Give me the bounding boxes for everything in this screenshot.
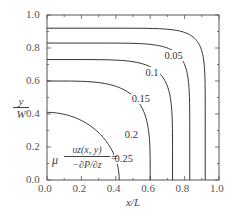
formula-annotation: μ υz(x, y) −∂P/∂z = — [50, 143, 140, 177]
y-axis-label: y W — [13, 95, 29, 121]
x-tick-label: 0.0 — [38, 182, 52, 194]
y-tick-label: 0.6 — [26, 74, 40, 86]
y-axis-label-den: W — [13, 108, 29, 121]
contour-label: 0.1 — [144, 67, 159, 78]
y-axis-label-num: y — [13, 95, 29, 108]
contour-label: 0.15 — [131, 93, 151, 104]
y-tick-label: 0.0 — [26, 173, 40, 185]
formula-numerator: υz(x, y) — [64, 143, 110, 157]
x-tick-label: 0.4 — [107, 182, 121, 194]
y-tick-label: 0.8 — [26, 41, 40, 53]
y-tick-label: 1.0 — [26, 8, 40, 20]
formula-denominator: −∂P/∂z — [64, 158, 110, 171]
x-tick-label: 0.2 — [72, 182, 86, 194]
contour-label: 0.05 — [163, 50, 183, 61]
x-axis-label: x/L — [118, 196, 148, 208]
x-tick-label: 1.0 — [210, 182, 224, 194]
x-tick-label: 0.8 — [176, 182, 190, 194]
y-tick-label: 0.2 — [26, 140, 40, 152]
formula-mu: μ — [52, 153, 58, 168]
x-tick-label: 0.6 — [141, 182, 155, 194]
formula-equals: = — [111, 151, 118, 166]
contour-label: 0.2 — [124, 129, 139, 140]
